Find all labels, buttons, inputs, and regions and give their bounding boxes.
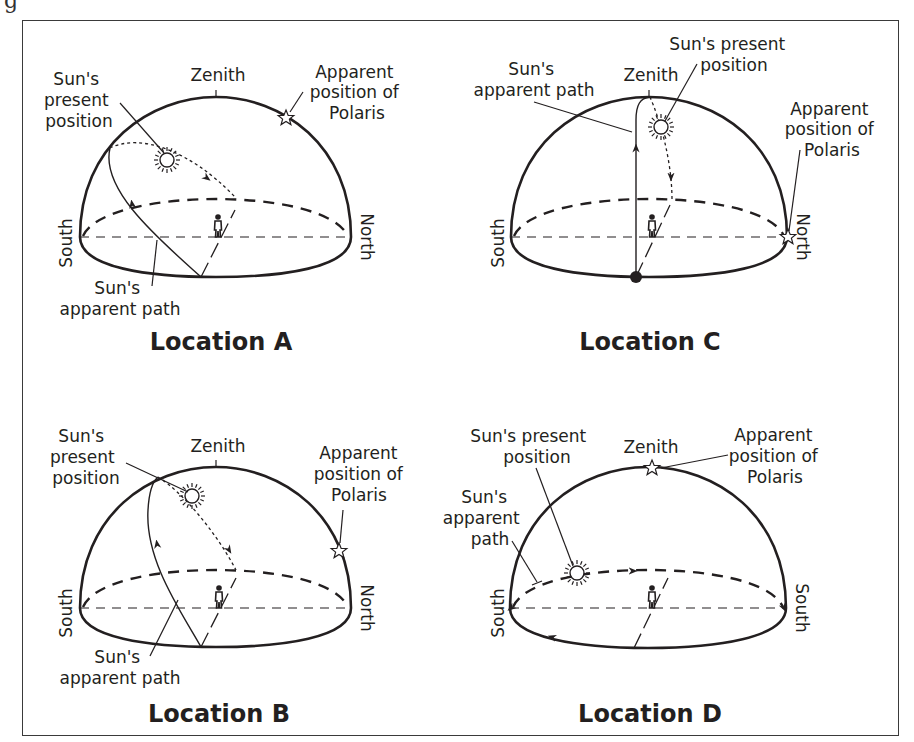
- sun-present-label: Sun's present position: [669, 34, 790, 75]
- north-label: North: [357, 584, 377, 632]
- zenith-label: Zenith: [623, 65, 678, 85]
- zenith-label: Zenith: [190, 65, 245, 85]
- zenith-label: Zenith: [623, 437, 678, 457]
- sun-path-visible: [636, 97, 650, 277]
- south-label: South: [488, 218, 508, 267]
- sun-path-label: Sun's apparent path: [60, 647, 181, 688]
- sun-icon: [564, 560, 590, 586]
- north-label: North: [793, 213, 813, 261]
- sky-dome-arc: [511, 97, 787, 237]
- observer-icon: [649, 214, 656, 237]
- east-west-line: [201, 210, 235, 277]
- sunrise-point-dot: [630, 271, 642, 283]
- horizon-front-arc: [511, 237, 787, 277]
- leader-line: [290, 92, 303, 112]
- horizon-front-arc: [80, 237, 351, 277]
- polaris-star-icon: [644, 460, 660, 475]
- leader-line: [126, 463, 188, 492]
- panel-location-d: Zenith Sun's present position Apparent p…: [443, 425, 823, 728]
- sun-path-dotted: [650, 97, 672, 200]
- leader-line: [534, 102, 632, 132]
- panel-location-c: Zenith Sun's present position Sun's appa…: [474, 34, 880, 356]
- sky-dome-diagram: Zenith Sun's present position Apparent p…: [0, 0, 914, 742]
- panel-title: Location C: [579, 328, 720, 356]
- sky-dome-arc: [510, 467, 786, 608]
- horizon-front-arc: [510, 608, 786, 648]
- polaris-label: Apparent position of Polaris: [785, 99, 880, 160]
- panel-title: Location B: [148, 700, 290, 728]
- sun-path-label: Sun's apparent path: [60, 278, 181, 319]
- panel-location-b: Zenith Sun's present position Apparent p…: [50, 426, 408, 728]
- sun-icon: [154, 147, 180, 173]
- horizon-front-arc: [80, 608, 351, 647]
- sun-present-label: Sun's present position: [470, 426, 591, 467]
- sun-path-arrow-icon: [157, 544, 159, 556]
- sun-icon: [648, 114, 674, 140]
- sun-path-arrow-icon: [199, 172, 207, 178]
- observer-icon: [215, 214, 222, 237]
- observer-icon: [649, 585, 656, 608]
- observer-icon: [216, 585, 223, 608]
- panel-location-a: Zenith Sun's present position Apparent p…: [44, 62, 404, 356]
- polaris-star-icon: [331, 543, 347, 558]
- leader-line: [340, 510, 343, 543]
- panel-title: Location D: [578, 700, 722, 728]
- south-label: South: [56, 218, 76, 267]
- sun-path-label: Sun's apparent path: [443, 487, 525, 549]
- polaris-label: Apparent position of Polaris: [314, 443, 409, 505]
- sun-present-label: Sun's present position: [50, 426, 120, 488]
- sun-path-label: Sun's apparent path: [474, 59, 595, 100]
- polaris-label: Apparent position of Polaris: [310, 62, 405, 123]
- south-label: South: [56, 588, 76, 637]
- north-label: North: [357, 213, 377, 261]
- sun-present-label: Sun's present position: [44, 69, 114, 131]
- panel-title: Location A: [150, 328, 293, 356]
- sun-path-dotted: [110, 143, 235, 197]
- polaris-label: Apparent position of Polaris: [729, 425, 824, 487]
- leader-line: [152, 240, 157, 286]
- zenith-label: Zenith: [190, 436, 245, 456]
- south-label-left: South: [488, 588, 508, 637]
- sun-icon: [179, 483, 205, 509]
- south-label-right: South: [792, 583, 812, 632]
